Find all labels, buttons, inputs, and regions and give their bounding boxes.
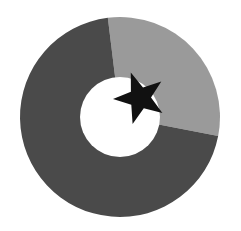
donut-chart (0, 0, 241, 231)
donut-chart-canvas (0, 0, 241, 231)
